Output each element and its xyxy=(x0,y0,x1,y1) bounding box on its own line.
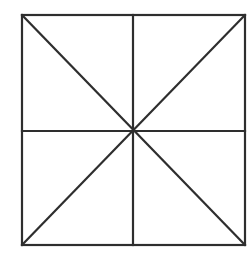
dividing-lines xyxy=(22,15,245,245)
diagram-canvas xyxy=(0,0,251,255)
square-diagram xyxy=(0,0,251,255)
